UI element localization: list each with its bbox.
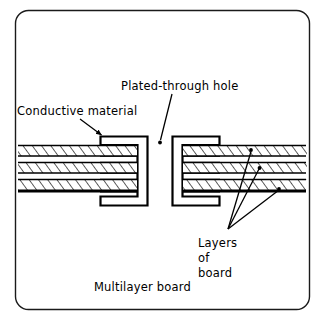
layer-1-dot [249, 148, 253, 152]
figure-caption: Multilayer board [94, 280, 191, 294]
conductive-material-label: Conductive material [17, 104, 137, 118]
layers-of-board-line-1: Layers [198, 236, 237, 250]
figure-root: Plated-through hole Conductive material … [0, 0, 325, 323]
plated-through-hole-dot [158, 141, 162, 145]
left-board-layers-overlay [100, 146, 137, 192]
layers-of-board-line-2: of [198, 251, 210, 265]
layers-of-board-line-3: board [198, 266, 232, 280]
layer-3-dot [277, 187, 281, 191]
multilayer-board-diagram: Plated-through hole Conductive material … [0, 0, 325, 323]
right-board-layers-overlay [183, 146, 220, 192]
plated-through-hole-label: Plated-through hole [121, 79, 238, 93]
page-background [0, 0, 325, 323]
layer-2-dot [258, 166, 262, 170]
